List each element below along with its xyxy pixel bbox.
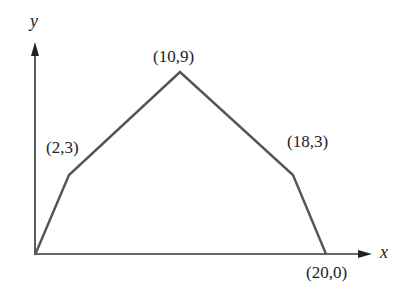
diagram-canvas: y x (2,3) (10,9) (18,3) (20,0) [0, 0, 409, 293]
y-axis-arrow-icon [31, 42, 39, 56]
x-axis-label: x [380, 243, 388, 261]
x-axis-arrow-icon [358, 250, 372, 258]
path-line [35, 72, 326, 255]
point-label-2-3: (2,3) [46, 139, 79, 156]
y-axis-label: y [30, 12, 38, 30]
point-label-10-9: (10,9) [153, 48, 194, 65]
point-label-18-3: (18,3) [287, 133, 328, 150]
point-label-20-0: (20,0) [306, 264, 347, 281]
